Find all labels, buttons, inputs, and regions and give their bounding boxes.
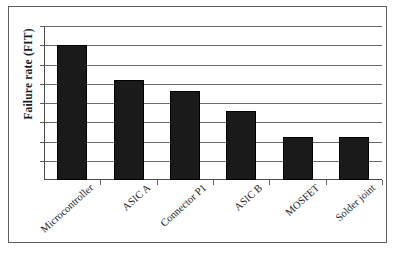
plot-area [44,26,382,180]
y-axis-title: Failure rate (FIT) [22,9,40,139]
figure: Failure rate (FIT) MicrocontrollerASIC A… [0,0,397,257]
bar [283,137,313,180]
y-axis-tick [40,161,45,162]
x-axis-labels: MicrocontrollerASIC AConnector P1ASIC BM… [44,182,382,248]
bar [114,80,144,180]
bar [339,137,369,180]
x-axis-label: ASIC B [232,182,264,213]
x-axis-tick [382,180,383,185]
gridline [44,45,382,46]
y-axis-tick [40,84,45,85]
x-axis-label: MOSFET [283,182,321,218]
gridline [44,161,382,162]
bar [57,45,87,180]
y-axis-tick [40,65,45,66]
y-axis-tick [40,45,45,46]
x-axis-label: Solder joint [333,182,377,223]
gridline [44,84,382,85]
bar [170,91,200,180]
x-axis-label: Connector P1 [158,182,208,229]
gridline [44,65,382,66]
gridline [44,26,382,27]
gridline [44,142,382,143]
x-axis-label: Microcontroller [39,182,96,235]
y-axis-tick [40,142,45,143]
y-axis-tick [40,103,45,104]
gridline [44,122,382,123]
chart-frame: Failure rate (FIT) MicrocontrollerASIC A… [8,6,387,243]
y-axis-tick [40,122,45,123]
x-axis-label: ASIC A [120,182,152,213]
y-axis-tick [40,26,45,27]
bar [226,111,256,180]
gridline [44,103,382,104]
